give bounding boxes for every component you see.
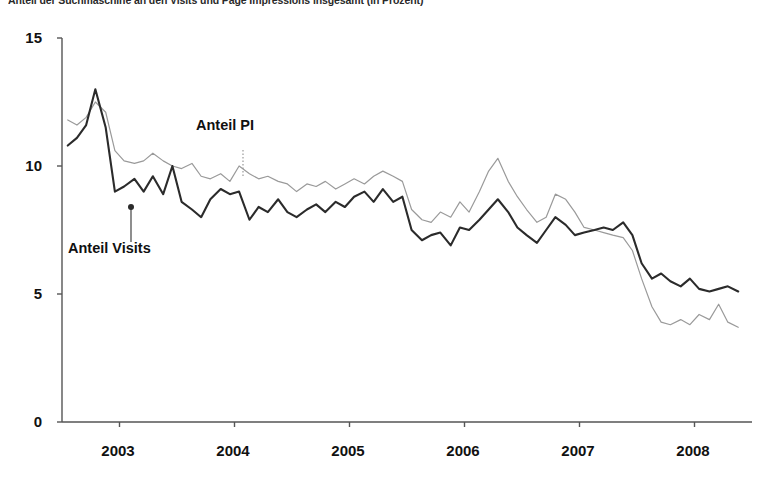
annotation-leader-lines [128, 150, 243, 242]
anteil-visits-marker-dot [128, 204, 134, 210]
x-tick-label-2008: 2008 [653, 443, 733, 458]
x-tick-label-2003: 2003 [78, 443, 158, 458]
chart-figure: Anteil der Suchmaschine an den Visits un… [0, 0, 776, 485]
y-tick-label-0: 0 [8, 414, 42, 429]
annotation-anteil-visits: Anteil Visits [68, 241, 151, 256]
x-tick-label-2006: 2006 [423, 443, 503, 458]
x-tick-label-2004: 2004 [193, 443, 273, 458]
x-tick-label-2007: 2007 [538, 443, 618, 458]
series-line-anteil-pi [68, 102, 738, 327]
x-axis-ticks [120, 422, 695, 427]
x-tick-label-2005: 2005 [308, 443, 388, 458]
y-tick-label-15: 15 [8, 30, 42, 45]
series-line-anteil-visits [68, 89, 738, 291]
annotation-anteil-pi: Anteil PI [196, 118, 254, 133]
y-axis-ticks [57, 38, 62, 422]
y-tick-label-10: 10 [8, 158, 42, 173]
y-tick-label-5: 5 [8, 286, 42, 301]
data-series-layer [68, 89, 738, 327]
